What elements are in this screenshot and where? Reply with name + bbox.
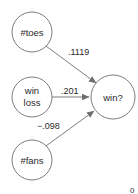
node-fans: #fans [12,140,52,180]
node-label: #fans [20,155,43,166]
node-toes: #toes [12,12,52,52]
node-winloss: win loss [12,77,52,117]
edge-weight-label: .201 [61,86,79,96]
corner-label: 0 [130,186,135,194]
edge-winloss-to-win: .201 [52,86,89,97]
edge-toes-to-win: .1119 [46,46,96,83]
neural-network-diagram: .1119 .201 −.098 #toes win loss #fans wi… [0,0,138,194]
node-label: #toes [20,27,43,38]
edge-weight-label: .1119 [68,47,89,57]
node-label-line2: loss [24,97,41,108]
node-win: win? [91,75,135,119]
edge-weight-label: −.098 [37,121,60,131]
node-label-line1: win [24,85,39,96]
node-label: win? [102,92,123,103]
edge-fans-to-win: −.098 [37,111,94,146]
